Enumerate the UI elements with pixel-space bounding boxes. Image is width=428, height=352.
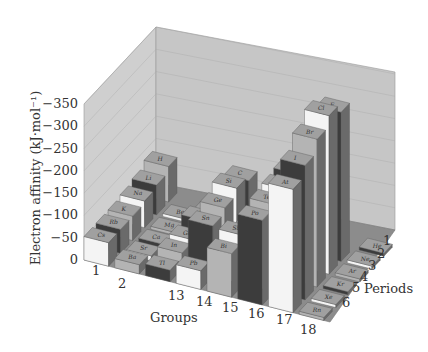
element-symbol: Cl [318,104,325,111]
group-tick-label: 14 [196,294,213,309]
element-symbol: H [157,155,164,162]
element-symbol: Bi [220,242,227,249]
element-symbol: Tl [159,259,165,266]
bar-Po: Po [238,205,271,305]
group-tick-label: 16 [248,306,265,321]
element-symbol: Ar [348,267,357,274]
element-symbol: Po [250,209,259,216]
element-symbol: Li [145,174,152,181]
element-symbol: Ca [152,233,161,240]
element-symbol: At [281,178,289,185]
element-symbol: Rb [109,218,119,225]
element-symbol: Xe [324,293,333,300]
bar-At: At [269,174,302,313]
element-symbol: C [238,169,243,176]
y-tick-label: −200 [42,163,78,178]
element-symbol: Si [226,177,232,184]
electron-affinity-3d-bar-chart: HHeLiBeBCNOFNeNaMgAlSiPSClArKCaGaGeAsSeB… [0,0,428,352]
period-tick-label: 3 [368,258,376,273]
element-symbol: Br [305,128,314,135]
y-axis-ticks: 0−50−100−150−200−250−300−350 [42,96,78,267]
y-tick-label: −50 [51,230,78,245]
element-symbol: In [170,241,177,248]
element-symbol: Ba [127,253,136,260]
group-tick-label: 15 [222,300,239,315]
bar-Cs: Cs [84,228,117,267]
element-symbol: Cs [98,231,106,238]
group-tick-label: 13 [168,288,185,303]
period-tick-label: 5 [352,280,360,295]
y-tick-label: −100 [42,207,78,222]
y-tick-label: −300 [42,118,78,133]
group-tick-label: 17 [276,312,293,327]
period-tick-label: 4 [360,269,368,284]
period-tick-label: 6 [342,295,350,310]
y-tick-label: 0 [70,252,78,267]
element-symbol: Ge [214,196,223,203]
z-axis-title: Periods [364,281,413,296]
bar-Bi: Bi [207,238,240,297]
y-tick-label: −350 [42,96,78,111]
y-axis-title: Electron affinity (kJ·mol⁻¹) [28,91,43,266]
element-symbol: Rn [312,306,322,313]
bar-Pb: Pb [176,256,209,290]
group-tick-label: 18 [300,322,317,337]
element-symbol: Kr [336,280,345,287]
element-symbol: Sn [202,214,210,221]
element-symbol: Na [133,189,143,196]
element-symbol: K [121,205,127,212]
element-symbol: Mg [163,221,174,229]
group-tick-label: 1 [92,263,100,278]
group-tick-label: 2 [118,276,126,291]
y-tick-label: −250 [42,141,78,156]
element-symbol: Pb [189,259,198,266]
element-symbol: Sr [140,244,148,251]
y-tick-label: −150 [42,185,78,200]
period-tick-label: 2 [377,246,385,261]
x-axis-title: Groups [150,310,198,325]
